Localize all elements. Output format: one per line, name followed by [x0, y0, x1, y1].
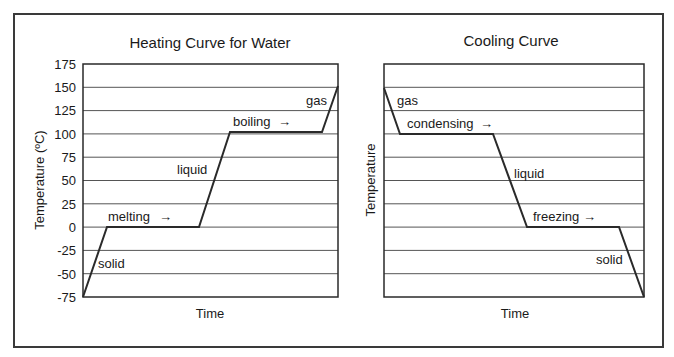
svg-text:25: 25 — [62, 197, 76, 212]
svg-text:-50: -50 — [57, 267, 76, 282]
cooling-y-axis-label: Temperature — [363, 144, 378, 217]
svg-text:50: 50 — [62, 173, 76, 188]
label-solid: solid — [596, 252, 623, 267]
svg-text:175: 175 — [54, 57, 76, 72]
label-gas: gas — [306, 93, 327, 108]
label-boiling: boiling — [233, 114, 271, 129]
label-liquid: liquid — [177, 162, 207, 177]
arrow-icon: → — [278, 114, 291, 129]
svg-text:0: 0 — [69, 220, 76, 235]
label-freezing: freezing — [533, 209, 579, 224]
label-gas: gas — [397, 93, 418, 108]
svg-text:100: 100 — [54, 127, 76, 142]
svg-text:75: 75 — [62, 150, 76, 165]
svg-text:150: 150 — [54, 80, 76, 95]
arrow-icon: → — [480, 116, 493, 131]
arrow-icon: → — [583, 209, 596, 224]
cooling-chart: Cooling Curve Temperature Time gas conde… — [363, 32, 644, 321]
label-solid: solid — [98, 256, 125, 271]
svg-text:-25: -25 — [57, 243, 76, 258]
svg-text:-75: -75 — [57, 290, 76, 305]
charts-canvas: Heating Curve for Water 175 150 125 100 … — [0, 0, 674, 357]
cooling-title: Cooling Curve — [463, 32, 558, 49]
arrow-icon: → — [159, 209, 172, 224]
heating-y-ticks: 175 150 125 100 75 50 25 0 -25 -50 -75 — [54, 57, 76, 305]
heating-gridlines — [83, 87, 338, 273]
cooling-x-axis-label: Time — [501, 306, 529, 321]
label-condensing: condensing — [407, 116, 474, 131]
heating-chart: Heating Curve for Water 175 150 125 100 … — [32, 34, 338, 321]
heating-title: Heating Curve for Water — [129, 34, 290, 51]
label-liquid: liquid — [514, 166, 544, 181]
heating-y-axis-label: Temperature (ºC) — [32, 130, 47, 229]
label-melting: melting — [108, 209, 150, 224]
svg-text:125: 125 — [54, 103, 76, 118]
heating-x-axis-label: Time — [196, 306, 224, 321]
